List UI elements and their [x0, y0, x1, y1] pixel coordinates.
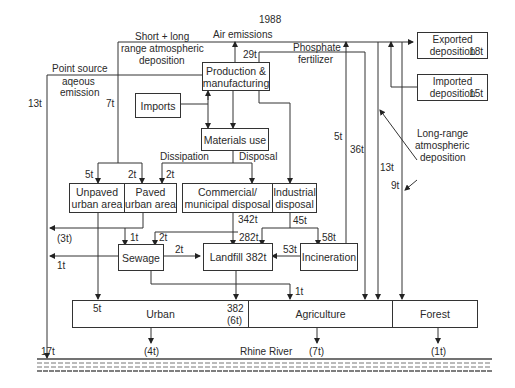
flow-short-7t: 7t	[106, 98, 114, 110]
flow-river-1t: (1t)	[431, 346, 446, 358]
rhine-river-label: Rhine River	[240, 346, 292, 358]
flow-river-17t: 17t	[41, 346, 55, 358]
sewage-box: Sewage	[118, 244, 164, 271]
phosphate-label: Phosphate	[293, 42, 341, 54]
range-atmos-label: range atmospheric	[121, 43, 204, 55]
flow-urban-5t: 5t	[93, 303, 101, 315]
flow-lr-9t: 9t	[391, 180, 399, 192]
landfill-box: Landfill 382t	[203, 243, 273, 271]
flow-paved-2t: 2t	[128, 169, 136, 181]
short-long-label: Short + long	[135, 31, 189, 43]
exported-value: 18t	[469, 46, 483, 58]
flow-air-29t: 29t	[243, 49, 257, 61]
flow-river-7t: (7t)	[309, 346, 324, 358]
air-emissions-label: Air emissions	[213, 29, 272, 41]
industrial-disposal-box: Industrial disposal	[272, 183, 317, 213]
flow-sewage-out-1t: 1t	[57, 260, 65, 272]
flow-river-4t: (4t)	[144, 346, 159, 358]
flow-runoff-3t: (3t)	[57, 233, 72, 245]
flow-agri-1t: 1t	[295, 286, 303, 298]
deposition2-label: deposition	[420, 152, 466, 164]
flow-phos-5t: 5t	[334, 131, 342, 143]
incineration-box: Incineration	[300, 243, 358, 271]
atmospheric-label: atmospheric	[415, 140, 469, 152]
imported-value: 15t	[469, 88, 483, 100]
flow-ind-45t: 45t	[293, 215, 307, 227]
dissipation-label: Dissipation	[160, 151, 209, 163]
flow-point-13t: 13t	[28, 98, 42, 110]
agriculture-box: Agriculture	[248, 300, 393, 328]
diagram-title: 1988	[259, 14, 281, 26]
long-range-label: Long-range	[417, 128, 468, 140]
flow-urban-382: 382	[227, 303, 244, 315]
flow-incin-58t: 58t	[322, 232, 336, 244]
fertilizer-label: fertilizer	[298, 54, 333, 66]
deposition-label: deposition	[139, 55, 185, 67]
flow-incin-53t: 53t	[283, 244, 297, 256]
flow-urban-6t: (6t)	[227, 315, 242, 327]
imports-box: Imports	[135, 93, 181, 118]
flow-lr-13t: 13t	[380, 162, 394, 174]
flow-unpaved-5t: 5t	[85, 169, 93, 181]
emission-label: emission	[60, 87, 99, 99]
flow-comm-342t: 342t	[238, 214, 257, 226]
forest-box: Forest	[392, 300, 478, 328]
flow-sewage-1t-in: 1t	[130, 232, 138, 244]
flow-phos-36t: 36t	[350, 144, 364, 156]
materials-use-box: Materials use	[201, 128, 269, 151]
commercial-disposal-box: Commercial/ municipal disposal	[182, 183, 273, 213]
flow-sewage-2t-in: 2t	[159, 232, 167, 244]
point-source-label: Point source	[52, 63, 108, 75]
exported-deposition-box: Exported deposition 18t	[417, 32, 488, 59]
paved-urban-box: Paved urban area	[124, 183, 177, 213]
disposal-label: Disposal	[239, 151, 277, 163]
production-box: Production & manufacturing	[202, 62, 270, 91]
imported-deposition-box: Imported deposition 15t	[417, 74, 488, 101]
unpaved-urban-box: Unpaved urban area	[69, 183, 125, 213]
flow-sewage-landfill-2t: 2t	[175, 244, 183, 256]
flow-landfill-282t: 282t	[239, 232, 258, 244]
flow-dissip-2t: 2t	[166, 169, 174, 181]
rhine-river	[37, 359, 492, 371]
